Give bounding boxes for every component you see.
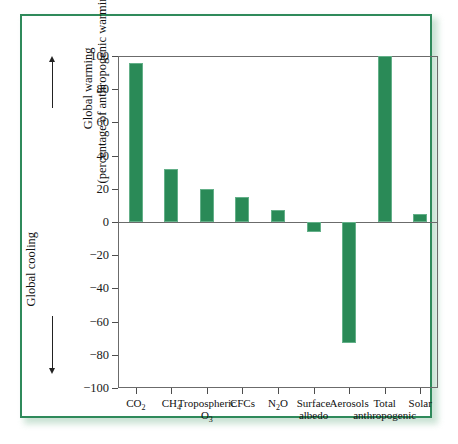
bar-n-o [271, 210, 285, 222]
y-tick-label-minus40: −40 [89, 282, 109, 295]
y-tick-label-minus80: −80 [89, 349, 109, 362]
warming-arrow-shaft [52, 62, 53, 108]
figure: Global warming (percentage of anthropoge… [0, 0, 458, 444]
x-tick-6 [349, 388, 350, 394]
x-tick-0 [136, 388, 137, 394]
bar-surface-albedo [307, 222, 321, 232]
cooling-arrow-shaft [52, 316, 53, 368]
x-axis-label-5: Surfacealbedo [297, 397, 331, 422]
y-axis-title-cooling: Global cooling [24, 194, 38, 344]
bar-ch [164, 169, 178, 222]
x-tick-1 [171, 388, 172, 394]
y-tick-label-20: 20 [97, 183, 110, 196]
chart-frame: Global warming (percentage of anthropoge… [20, 14, 432, 418]
x-axis-label-8: Solar [409, 397, 432, 409]
y-tick-label-100: 100 [90, 50, 109, 63]
zero-axis-line [118, 222, 438, 223]
warming-arrow-head [49, 56, 55, 62]
x-axis-label-0: CO2 [126, 397, 145, 413]
bar-tropospheric-o [200, 189, 214, 222]
x-tick-7 [385, 388, 386, 394]
bar-aerosols [342, 222, 356, 343]
y-tick-label-40: 40 [97, 149, 110, 162]
x-axis-label-7: Totalanthropogenic [353, 397, 416, 422]
y-tick-label-minus60: −60 [89, 315, 109, 328]
cooling-arrow-head [49, 368, 55, 374]
x-tick-5 [314, 388, 315, 394]
x-axis-label-4: N2O [268, 397, 288, 413]
y-tick-label-minus20: −20 [89, 249, 109, 262]
x-axis-label-3: CFCs [230, 397, 255, 409]
y-tick-label-60: 60 [97, 116, 110, 129]
x-axis-label-2: TroposphericO3 [178, 397, 236, 425]
x-tick-8 [420, 388, 421, 394]
plot-area: 100 80 60 40 20 0 [118, 56, 438, 388]
y-axis-title-cooling-label: Global cooling [24, 232, 38, 307]
bar-cfcs [235, 197, 249, 222]
x-tick-4 [278, 388, 279, 394]
y-tick-label-80: 80 [97, 83, 110, 96]
x-tick-2 [207, 388, 208, 394]
y-tick-label-minus100: −100 [83, 382, 109, 395]
bar-total-anthropogenic [378, 56, 392, 222]
y-tick-label-0: 0 [103, 216, 109, 229]
bar-co [129, 63, 143, 222]
bar-solar [413, 214, 427, 222]
x-tick-3 [242, 388, 243, 394]
